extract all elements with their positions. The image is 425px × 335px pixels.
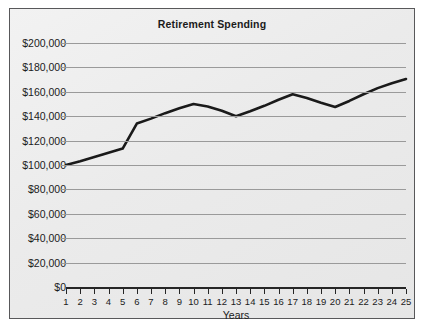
y-axis-tick-label: $160,000: [4, 86, 66, 98]
y-axis-tick: [61, 141, 66, 142]
x-axis-tick: [293, 289, 294, 294]
y-axis-tick: [61, 263, 66, 264]
y-axis-tick-label: $140,000: [4, 110, 66, 122]
x-axis-tick-label: 18: [302, 296, 313, 307]
x-axis-tick: [378, 289, 379, 294]
x-axis-tick: [137, 289, 138, 294]
y-axis-tick: [61, 92, 66, 93]
x-axis-tick-label: 9: [177, 296, 182, 307]
x-axis-tick-label: 22: [358, 296, 369, 307]
gridline: [66, 116, 406, 117]
y-axis-tick-label: $60,000: [4, 208, 66, 220]
x-axis-tick: [208, 289, 209, 294]
x-axis-tick: [279, 289, 280, 294]
y-axis-tick-label: $80,000: [4, 183, 66, 195]
gridline: [66, 238, 406, 239]
x-axis-tick: [165, 289, 166, 294]
x-axis-tick: [264, 289, 265, 294]
y-axis-tick: [61, 214, 66, 215]
x-axis-tick: [406, 289, 407, 294]
y-axis-tick: [61, 165, 66, 166]
plot-area: [66, 43, 406, 287]
x-axis-title: Years: [66, 309, 406, 321]
x-axis-tick: [179, 289, 180, 294]
x-axis-tick: [151, 289, 152, 294]
x-axis-tick: [250, 289, 251, 294]
x-axis-tick-label: 11: [203, 296, 213, 307]
gridline: [66, 92, 406, 93]
chart-container: Retirement Spending $0$20,000$40,000$60,…: [9, 8, 415, 319]
x-axis-tick: [307, 289, 308, 294]
x-axis-tick-label: 2: [78, 296, 83, 307]
x-axis-tick-label: 5: [120, 296, 125, 307]
x-axis-tick: [109, 289, 110, 294]
gridline: [66, 189, 406, 190]
y-axis-tick: [61, 238, 66, 239]
y-axis-tick-label: $120,000: [4, 135, 66, 147]
y-axis-tick: [61, 43, 66, 44]
x-axis-tick: [236, 289, 237, 294]
x-axis-tick-label: 23: [372, 296, 383, 307]
y-axis-tick: [61, 67, 66, 68]
x-axis-tick: [123, 289, 124, 294]
x-axis-tick-label: 25: [401, 296, 412, 307]
x-axis-tick-label: 21: [344, 296, 355, 307]
y-axis-labels: $0$20,000$40,000$60,000$80,000$100,000$1…: [10, 9, 66, 318]
y-axis-tick: [61, 189, 66, 190]
x-axis-tick: [80, 289, 81, 294]
gridline: [66, 263, 406, 264]
x-axis-tick-label: 19: [316, 296, 327, 307]
x-axis-tick-label: 16: [273, 296, 284, 307]
x-axis-tick-label: 17: [287, 296, 298, 307]
y-axis-tick: [61, 116, 66, 117]
x-axis-tick: [335, 289, 336, 294]
x-axis-tick-label: 4: [106, 296, 111, 307]
x-axis-tick-label: 15: [259, 296, 270, 307]
gridline: [66, 165, 406, 166]
y-axis-tick-label: $20,000: [4, 257, 66, 269]
x-axis-tick-label: 8: [163, 296, 168, 307]
x-axis-tick-label: 7: [148, 296, 153, 307]
x-axis-tick-label: 24: [387, 296, 398, 307]
x-axis-tick-label: 14: [245, 296, 256, 307]
x-axis-tick: [222, 289, 223, 294]
x-axis-tick: [194, 289, 195, 294]
x-axis-tick-label: 13: [231, 296, 242, 307]
x-axis-tick: [94, 289, 95, 294]
gridline: [66, 43, 406, 44]
x-axis-tick: [321, 289, 322, 294]
y-axis-tick-label: $40,000: [4, 232, 66, 244]
gridline: [66, 214, 406, 215]
chart-title: Retirement Spending: [10, 18, 414, 30]
y-axis-tick-label: $0: [4, 281, 66, 293]
y-axis-tick-label: $180,000: [4, 61, 66, 73]
gridline: [66, 67, 406, 68]
x-axis-tick: [66, 289, 67, 294]
x-axis-tick-label: 3: [92, 296, 97, 307]
x-axis-tick-label: 20: [330, 296, 341, 307]
y-axis-tick-label: $200,000: [4, 37, 66, 49]
y-axis-tick-label: $100,000: [4, 159, 66, 171]
x-axis-tick-label: 10: [188, 296, 199, 307]
x-axis-tick-label: 1: [63, 296, 68, 307]
x-axis-tick: [349, 289, 350, 294]
x-axis-tick: [364, 289, 365, 294]
x-axis-tick: [392, 289, 393, 294]
x-axis-tick-label: 6: [134, 296, 139, 307]
gridline: [66, 141, 406, 142]
x-axis-tick-label: 12: [217, 296, 228, 307]
